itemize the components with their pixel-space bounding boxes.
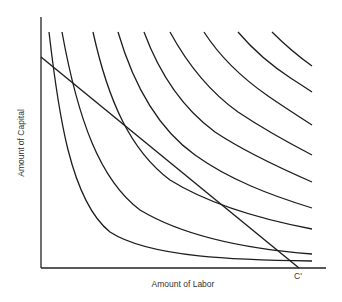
isoquant-curve-7 xyxy=(204,32,312,125)
x-axis-label: Amount of Labor xyxy=(152,279,215,289)
isoquant-curve-9 xyxy=(272,32,312,66)
isoquant-curve-6 xyxy=(170,32,312,155)
y-axis-label: Amount of Capital xyxy=(16,109,26,177)
isoquant-curve-1 xyxy=(49,32,312,261)
isoquant-chart: C' Amount of Labor Amount of Capital xyxy=(0,0,342,302)
isocost-line xyxy=(41,57,299,268)
isoquant-curve-5 xyxy=(144,32,312,182)
isoquant-curve-4 xyxy=(118,32,312,208)
isoquant-curve-8 xyxy=(238,32,312,92)
intercept-label: C' xyxy=(294,271,302,281)
isoquant-curve-3 xyxy=(93,32,312,229)
